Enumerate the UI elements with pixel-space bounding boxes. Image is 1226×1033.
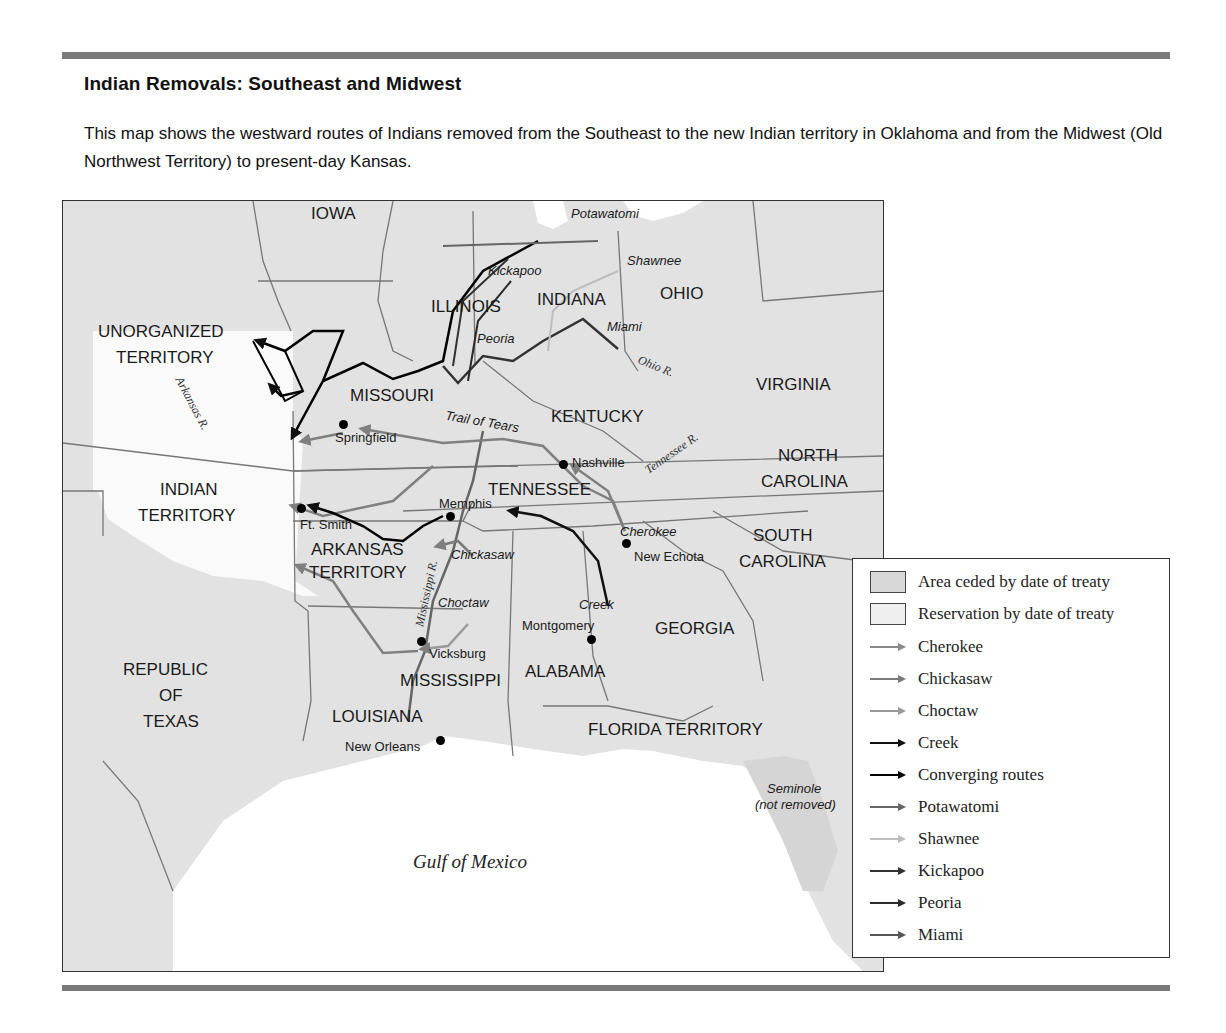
state-label-georgia: GEORGIA	[655, 618, 734, 640]
state-label-kentucky: KENTUCKY	[551, 406, 644, 428]
legend-item-creek: Creek	[853, 730, 959, 756]
state-label-north-carolina-2: CAROLINA	[761, 471, 848, 493]
city-dot-memphis	[446, 512, 455, 521]
state-label-texas-3: TEXAS	[143, 711, 199, 733]
reservation-swatch	[870, 603, 906, 625]
state-label-arkansas-1: ARKANSAS	[311, 539, 404, 561]
legend-item-miami: Miami	[853, 922, 963, 948]
state-label-mississippi: MISSISSIPPI	[400, 670, 501, 692]
state-label-south-carolina-2: CAROLINA	[739, 551, 826, 573]
city-label-nashville: Nashville	[572, 455, 625, 470]
arrow-icon	[870, 674, 906, 684]
legend-item-kickapoo: Kickapoo	[853, 858, 984, 884]
tribe-label-kickapoo: Kickapoo	[488, 263, 541, 278]
state-label-arkansas-2: TERRITORY	[309, 562, 407, 584]
state-label-illinois: ILLINOIS	[431, 296, 501, 318]
city-label-ft-smith: Ft. Smith	[300, 517, 352, 532]
arrow-icon	[870, 706, 906, 716]
tribe-label-shawnee: Shawnee	[627, 253, 681, 268]
state-label-ohio: OHIO	[660, 283, 703, 305]
state-label-unorganized-2: TERRITORY	[116, 347, 214, 369]
city-label-springfield: Springfield	[335, 430, 396, 445]
state-label-louisiana: LOUISIANA	[332, 706, 423, 728]
bottom-rule	[62, 985, 1170, 991]
legend-item-chickasaw: Chickasaw	[853, 666, 993, 692]
tribe-label-potawatomi: Potawatomi	[571, 206, 639, 221]
tribe-label-cherokee: Cherokee	[620, 524, 676, 539]
state-label-florida: FLORIDA TERRITORY	[588, 719, 763, 741]
legend-item-area-ceded: Area ceded by date of treaty	[853, 569, 1110, 595]
arrow-icon	[870, 898, 906, 908]
state-label-indian-territory-2: TERRITORY	[138, 505, 236, 527]
city-label-memphis: Memphis	[439, 496, 492, 511]
removal-map: IOWA ILLINOIS INDIANA OHIO UNORGANIZED T…	[62, 200, 884, 972]
legend-item-peoria: Peoria	[853, 890, 961, 916]
top-rule	[62, 52, 1170, 59]
city-label-new-echota: New Echota	[634, 549, 704, 564]
legend-item-cherokee: Cherokee	[853, 634, 983, 660]
state-label-texas-1: REPUBLIC	[123, 659, 208, 681]
arrow-icon	[870, 770, 906, 780]
legend-item-shawnee: Shawnee	[853, 826, 979, 852]
tribe-label-seminole-note: (not removed)	[755, 797, 836, 812]
tribe-label-creek: Creek	[579, 597, 614, 612]
arrow-icon	[870, 642, 906, 652]
arrow-icon	[870, 738, 906, 748]
city-label-vicksburg: Vicksburg	[429, 646, 486, 661]
city-dot-nashville	[559, 460, 568, 469]
state-label-tennessee: TENNESSEE	[488, 479, 591, 501]
legend-item-converging-routes: Converging routes	[853, 762, 1044, 788]
tribe-label-peoria: Peoria	[477, 331, 515, 346]
ceded-area-swatch	[870, 571, 906, 593]
city-dot-new-orleans	[436, 736, 445, 745]
tribe-label-seminole: Seminole	[767, 781, 821, 796]
city-label-new-orleans: New Orleans	[345, 739, 420, 754]
state-label-indiana: INDIANA	[537, 289, 606, 311]
state-label-north-carolina-1: NORTH	[778, 445, 838, 467]
state-label-texas-2: OF	[159, 685, 183, 707]
state-label-south-carolina-1: SOUTH	[753, 525, 813, 547]
state-label-alabama: ALABAMA	[525, 661, 605, 683]
state-label-iowa: IOWA	[311, 203, 356, 225]
city-dot-ft-smith	[297, 504, 306, 513]
city-dot-montgomery	[587, 635, 596, 644]
tribe-label-choctaw: Choctaw	[438, 595, 489, 610]
arrow-icon	[870, 802, 906, 812]
city-label-montgomery: Montgomery	[522, 618, 594, 633]
page-title: Indian Removals: Southeast and Midwest	[84, 73, 462, 95]
map-legend: Area ceded by date of treaty Reservation…	[852, 558, 1170, 958]
city-dot-new-echota	[622, 539, 631, 548]
state-label-indian-territory-1: INDIAN	[160, 479, 218, 501]
city-dot-springfield	[339, 420, 348, 429]
legend-item-potawatomi: Potawatomi	[853, 794, 999, 820]
legend-item-reservation: Reservation by date of treaty	[853, 601, 1114, 627]
tribe-label-miami: Miami	[607, 319, 642, 334]
state-label-unorganized-1: UNORGANIZED	[98, 321, 224, 343]
arrow-icon	[870, 930, 906, 940]
legend-item-choctaw: Choctaw	[853, 698, 978, 724]
state-label-missouri: MISSOURI	[350, 385, 434, 407]
map-description: This map shows the westward routes of In…	[84, 120, 1164, 176]
arrow-icon	[870, 834, 906, 844]
tribe-label-chickasaw: Chickasaw	[451, 547, 514, 562]
city-dot-vicksburg	[417, 637, 426, 646]
state-label-virginia: VIRGINIA	[756, 374, 831, 396]
arrow-icon	[870, 866, 906, 876]
water-label-gulf-of-mexico: Gulf of Mexico	[413, 851, 527, 873]
